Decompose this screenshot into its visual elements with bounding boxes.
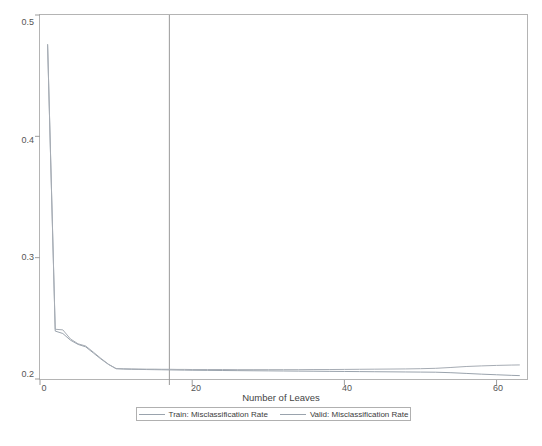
legend-line-swatch-valid	[280, 414, 306, 415]
data-series-group	[48, 45, 520, 376]
xtick-label-0: 0	[29, 383, 59, 393]
ytick-label-2: 0.3	[6, 252, 34, 262]
legend-line-swatch-train	[139, 414, 165, 415]
xtick-label-1: 20	[181, 383, 211, 393]
axis-ticks	[35, 15, 497, 385]
legend-item-train[interactable]: Train: Misclassification Rate	[133, 410, 274, 419]
legend-label-valid: Valid: Misclassification Rate	[310, 410, 409, 419]
xtick-label-3: 60	[483, 383, 513, 393]
ytick-label-0: 0.5	[6, 17, 34, 27]
ytick-label-1: 0.4	[6, 135, 34, 145]
legend-label-train: Train: Misclassification Rate	[169, 410, 268, 419]
ytick-label-3: 0.2	[6, 369, 34, 379]
chart-canvas	[0, 0, 542, 446]
legend-item-valid[interactable]: Valid: Misclassification Rate	[274, 410, 415, 419]
x-axis-title: Number of Leaves	[221, 392, 341, 403]
misclassification-rate-chart: 0.5 0.4 0.3 0.2 0 20 40 60 Number of Lea…	[0, 0, 542, 446]
chart-legend: Train: Misclassification Rate Valid: Mis…	[136, 407, 411, 421]
